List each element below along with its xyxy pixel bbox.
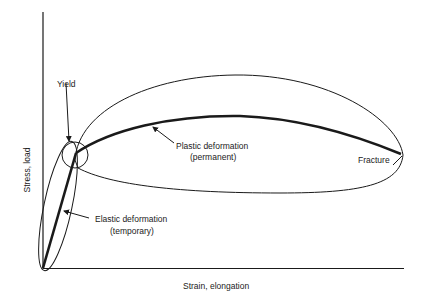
elastic-arrow [64, 211, 89, 218]
stress-strain-diagram: Yield Plastic deformation (permanent) El… [0, 0, 425, 294]
yield-label: Yield [57, 79, 76, 89]
elastic-label-line2: (temporary) [110, 226, 154, 236]
yield-arrow [66, 83, 69, 141]
plastic-region-ellipse [75, 75, 403, 193]
plastic-label-line2: (permanent) [190, 152, 236, 162]
fracture-label: Fracture [358, 155, 390, 165]
plastic-arrow [153, 127, 174, 143]
elastic-label-line1: Elastic deformation [95, 214, 168, 224]
plastic-label-line1: Plastic deformation [176, 141, 249, 151]
y-axis-label: Stress, load [22, 147, 32, 192]
x-axis-label: Strain, elongation [183, 281, 249, 291]
elastic-region-ellipse [31, 139, 86, 274]
